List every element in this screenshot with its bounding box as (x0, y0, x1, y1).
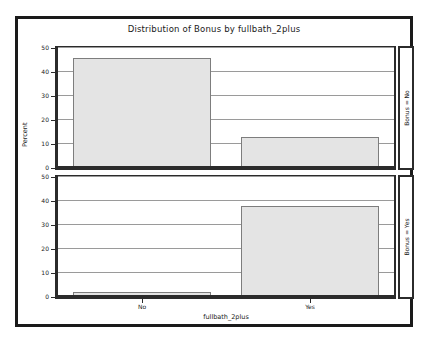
bar (241, 137, 379, 168)
baseline-bottom (58, 295, 394, 297)
y-axis-bottom-panel: 01020304050 (18, 175, 56, 299)
y-tick-label: 50 (41, 44, 49, 52)
y-tick-label: 50 (41, 173, 49, 181)
x-axis-label: fullbath_2plus (56, 313, 396, 321)
plot-area-top (58, 48, 394, 168)
y-tick-label: 40 (41, 197, 49, 205)
y-axis-top-panel: 01020304050 (18, 46, 56, 170)
x-tick-label: No (138, 303, 146, 310)
y-axis-label: Percent (21, 123, 29, 147)
y-tick-label: 10 (41, 140, 49, 148)
x-axis: NoYes (56, 299, 396, 313)
plot-area-bottom (58, 177, 394, 297)
y-tick-label: 30 (41, 221, 49, 229)
strip-label-bonus-no: Bonus = No (398, 46, 414, 170)
strip-text: Bonus = No (403, 90, 410, 126)
strip-label-bonus-yes: Bonus = Yes (398, 175, 414, 299)
x-tick-label: Yes (305, 303, 315, 310)
y-tick-label: 20 (41, 245, 49, 253)
bar (241, 206, 379, 297)
gridline (58, 176, 394, 177)
panel-bonus-no (56, 46, 396, 170)
gridline (58, 47, 394, 48)
y-tick-label: 20 (41, 116, 49, 124)
y-tick-label: 10 (41, 269, 49, 277)
panel-bonus-yes (56, 175, 396, 299)
chart-title: Distribution of Bonus by fullbath_2plus (18, 24, 410, 34)
y-tick-label: 0 (45, 293, 49, 301)
y-tick-label: 40 (41, 68, 49, 76)
chart-figure: Distribution of Bonus by fullbath_2plus … (15, 16, 413, 327)
strip-text: Bonus = Yes (403, 218, 410, 255)
y-tick-label: 0 (45, 164, 49, 172)
gridline (58, 200, 394, 201)
y-tick-label: 30 (41, 92, 49, 100)
bar (73, 58, 211, 168)
baseline-top (58, 166, 394, 168)
